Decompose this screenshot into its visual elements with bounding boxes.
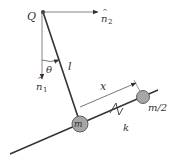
pivot-point (41, 10, 45, 14)
label-q: Q (27, 10, 36, 23)
label-m-half: m/2 (148, 102, 167, 113)
label-m: m (74, 119, 83, 129)
svg-text:1: 1 (43, 86, 47, 94)
label-theta: θ (46, 64, 52, 75)
label-k: k (123, 122, 129, 133)
svg-text:^: ^ (102, 8, 108, 16)
svg-text:2: 2 (108, 18, 112, 26)
spring-k (110, 103, 123, 115)
label-n1: n ^ 1 (36, 76, 47, 94)
svg-text:^: ^ (37, 76, 43, 84)
diagram-canvas: Q n ^ 2 n ^ 1 θ l x k m m/2 (0, 0, 182, 160)
label-x: x (100, 80, 107, 93)
theta-arc (42, 60, 59, 62)
label-l: l (68, 60, 72, 73)
label-n2: n ^ 2 (101, 8, 112, 26)
